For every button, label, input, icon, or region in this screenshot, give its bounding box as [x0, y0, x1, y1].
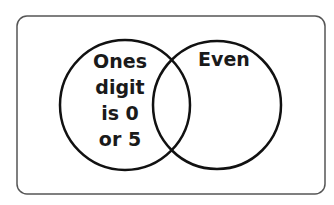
label-line-4: or 5: [99, 128, 141, 150]
venn-diagram: Ones digit is 0 or 5 Even: [0, 0, 334, 205]
label-line-3: is 0: [101, 102, 139, 124]
universal-set-frame: [17, 16, 325, 194]
label-line-1: Ones: [93, 50, 147, 72]
set-label-even: Even: [198, 48, 250, 70]
label-line-2: digit: [95, 76, 144, 98]
